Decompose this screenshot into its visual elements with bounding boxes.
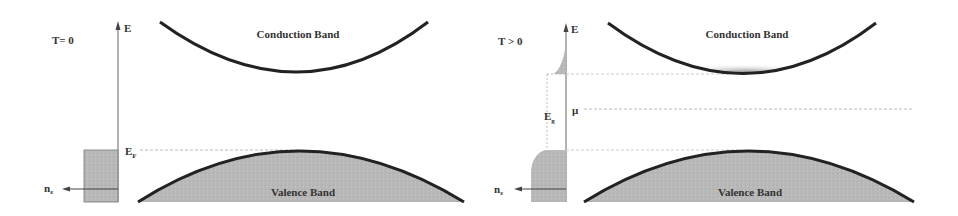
density-arrow-icon — [62, 187, 70, 192]
conduction-band-label: Conduction Band — [706, 28, 789, 40]
energy-axis-arrow-icon — [116, 21, 121, 30]
thermal-electron-tail — [553, 44, 566, 74]
occupied-density-block — [84, 150, 118, 202]
density-label: nε — [494, 183, 503, 197]
energy-axis-arrow-icon — [564, 23, 569, 32]
band-gap-label: Eg — [544, 110, 555, 125]
left-panel-t0: T= 0 E nε EF Conduction Band Valence Ban… — [44, 21, 464, 202]
occupied-density-block — [531, 150, 566, 202]
valence-band-label: Valence Band — [271, 186, 335, 198]
density-label: nε — [44, 182, 53, 196]
right-panel-t-positive: T > 0 E Eg μ nε Conduction Band Valence … — [494, 23, 914, 202]
chemical-potential-label: μ — [572, 104, 579, 116]
band-diagram: T= 0 E nε EF Conduction Band Valence Ban… — [0, 0, 958, 216]
density-arrow-icon — [514, 187, 522, 192]
temperature-label: T > 0 — [498, 35, 523, 47]
valence-band-label: Valence Band — [718, 186, 782, 198]
thermal-electrons-fill — [680, 58, 808, 72]
temperature-label: T= 0 — [52, 34, 74, 46]
energy-axis-label: E — [571, 23, 578, 35]
conduction-band-label: Conduction Band — [257, 28, 340, 40]
fermi-level-label: EF — [125, 145, 137, 160]
energy-axis-label: E — [124, 22, 131, 34]
